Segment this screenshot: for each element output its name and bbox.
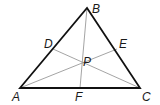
- triangle-diagram: B A C D E F P: [0, 0, 160, 105]
- label-f: F: [75, 90, 83, 104]
- cevian-a-e: [20, 49, 117, 88]
- label-c: C: [142, 90, 151, 104]
- label-p: P: [83, 55, 91, 69]
- cevian-b-f: [80, 8, 87, 88]
- label-e: E: [119, 37, 128, 51]
- label-d: D: [44, 37, 53, 51]
- label-b: B: [92, 2, 100, 16]
- label-a: A: [11, 90, 20, 104]
